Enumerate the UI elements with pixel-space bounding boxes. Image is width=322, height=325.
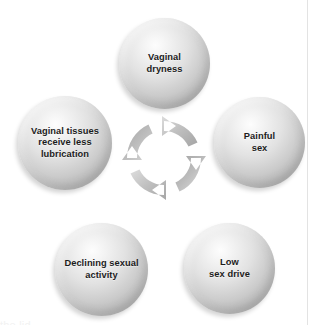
cycle-diagram-figure: Vaginaldryness Painfulsex Lowsex drive D… <box>0 0 322 325</box>
cycle-node-declining-sexual-activity: Declining sexualactivity <box>55 223 148 316</box>
cycle-node-label: Lowsex drive <box>203 257 256 280</box>
cycle-node-vaginal-tissues-less-lubrication: Vaginal tissuesreceive lesslubrication <box>18 96 112 190</box>
cycle-node-low-sex-drive: Lowsex drive <box>184 223 275 314</box>
cycle-node-label: Painfulsex <box>238 131 281 154</box>
cycle-node-painful-sex: Painfulsex <box>214 97 305 188</box>
clipped-caption-text: the lid <box>0 319 200 325</box>
cycle-node-label: Declining sexualactivity <box>58 258 144 281</box>
circular-arrows-icon <box>118 112 210 204</box>
cycle-node-label: Vaginaldryness <box>140 52 188 75</box>
page-margin-rule <box>307 0 308 325</box>
cycle-node-label: Vaginal tissuesreceive lesslubrication <box>25 126 105 160</box>
cycle-node-vaginal-dryness: Vaginaldryness <box>119 18 210 109</box>
